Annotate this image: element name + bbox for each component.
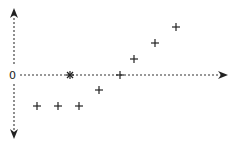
asterisk-marker-icon: [66, 71, 74, 79]
diagram: 0: [0, 0, 236, 146]
data-points: [33, 23, 180, 110]
plus-marker-icon: [75, 102, 83, 110]
origin-label: 0: [9, 69, 16, 82]
plus-marker-icon: [151, 39, 159, 47]
plus-marker-icon: [54, 102, 62, 110]
plus-marker-icon: [95, 86, 103, 94]
plus-marker-icon: [33, 102, 41, 110]
y-axis-down-arrow-icon: [10, 129, 18, 139]
plus-marker-icon: [130, 55, 138, 63]
plus-marker-icon: [116, 71, 124, 79]
x-axis-right-arrow-icon: [218, 71, 228, 79]
y-axis-up-arrow-icon: [10, 8, 18, 18]
plus-marker-icon: [172, 23, 180, 31]
